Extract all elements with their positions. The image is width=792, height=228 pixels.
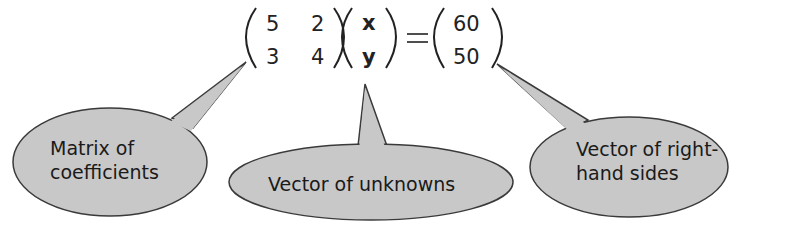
callout-unknowns-shape <box>229 84 513 220</box>
callout-matrix-line1: Matrix of <box>50 136 134 160</box>
unknown-x: x <box>362 11 376 35</box>
matrix-a21: 3 <box>266 45 279 69</box>
matrix-a22: 4 <box>311 45 324 69</box>
callout-matrix-line2: coefficients <box>50 160 159 184</box>
unknown-y: y <box>362 45 376 69</box>
callout-unknowns-line1: Vector of unknowns <box>268 172 455 196</box>
callout-rhs-line2: hand sides <box>576 161 679 185</box>
matrix-a12: 2 <box>311 12 324 36</box>
rhs-1: 60 <box>453 12 480 36</box>
callout-rhs-line1: Vector of right- <box>576 137 718 161</box>
equals-sign <box>407 34 428 42</box>
rhs-2: 50 <box>453 45 480 69</box>
matrix-a11: 5 <box>266 12 279 36</box>
